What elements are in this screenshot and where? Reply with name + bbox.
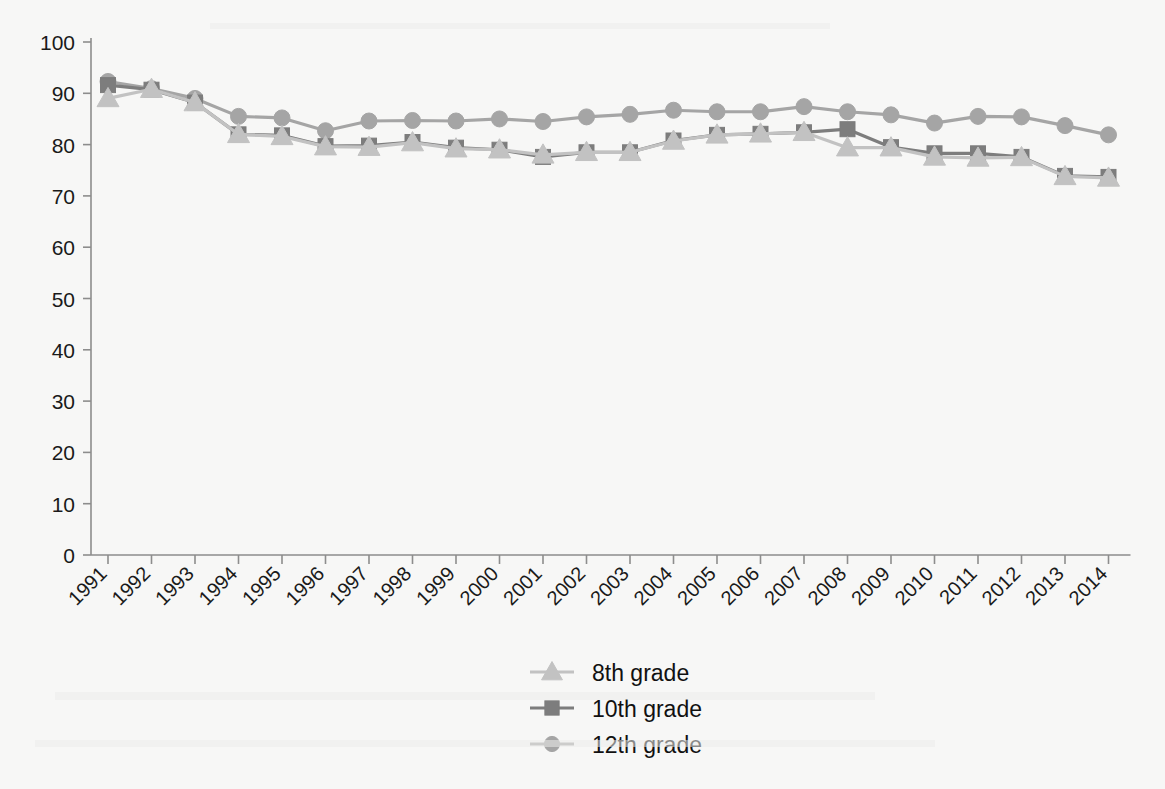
data-point-marker	[545, 701, 559, 715]
y-tick-label: 60	[52, 236, 75, 259]
data-point-marker	[970, 108, 986, 124]
legend-item-label: 8th grade	[592, 660, 689, 686]
data-point-marker	[1057, 118, 1073, 134]
data-point-marker	[840, 122, 855, 137]
y-tick-label: 20	[52, 441, 75, 464]
data-point-marker	[927, 115, 943, 131]
data-point-marker	[405, 112, 421, 128]
data-point-marker	[1014, 109, 1030, 125]
data-point-marker	[666, 102, 682, 118]
data-point-marker	[448, 113, 464, 129]
data-point-marker	[796, 99, 812, 115]
data-point-marker	[579, 109, 595, 125]
y-tick-label: 50	[52, 288, 75, 311]
legend-item-label: 12th grade	[592, 732, 702, 758]
data-point-marker	[883, 107, 899, 123]
data-point-marker	[231, 108, 247, 124]
data-point-marker	[1101, 127, 1117, 143]
data-point-marker	[709, 104, 725, 120]
data-point-marker	[274, 110, 290, 126]
data-point-marker	[753, 104, 769, 120]
data-point-marker	[544, 736, 559, 751]
y-tick-label: 90	[52, 82, 75, 105]
y-tick-label: 100	[40, 31, 75, 54]
line-chart: 0102030405060708090100 19911992199319941…	[0, 0, 1165, 789]
legend-item-label: 10th grade	[592, 696, 702, 722]
y-tick-label: 80	[52, 134, 75, 157]
y-tick-label: 10	[52, 493, 75, 516]
chart-canvas: 0102030405060708090100 19911992199319941…	[0, 0, 1165, 789]
data-point-marker	[361, 113, 377, 129]
y-tick-label: 30	[52, 390, 75, 413]
data-point-marker	[492, 111, 508, 127]
data-point-marker	[622, 106, 638, 122]
y-tick-label: 70	[52, 185, 75, 208]
data-point-marker	[840, 104, 856, 120]
chart-legend: 8th grade10th grade12th grade	[530, 660, 702, 758]
data-point-marker	[535, 114, 551, 130]
y-tick-label: 0	[63, 544, 75, 567]
y-tick-label: 40	[52, 339, 75, 362]
